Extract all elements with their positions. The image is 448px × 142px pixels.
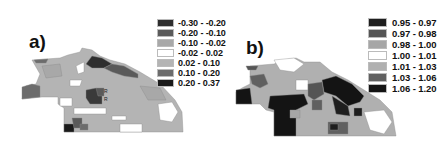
legend-swatch xyxy=(157,69,174,77)
legend-label: 1.00 - 1.01 xyxy=(392,50,436,61)
legend-swatch xyxy=(368,29,387,38)
legend-label: 0.97 - 0.98 xyxy=(392,28,436,39)
legend-swatch xyxy=(368,84,387,93)
legend-swatch xyxy=(368,40,387,49)
legend-swatch xyxy=(157,79,174,87)
legend-swatch xyxy=(157,59,174,67)
legend-item: 1.01 - 1.03 xyxy=(368,61,436,72)
legend-item: -0.10 - -0.02 xyxy=(157,38,226,48)
marker-r: R xyxy=(104,88,108,94)
legend-swatch xyxy=(368,51,387,60)
legend-label: 0.02 - 0.10 xyxy=(178,58,220,68)
marker-r: R xyxy=(104,96,108,102)
map-panel-b: b) 0.95 - 0.97 0.97 - 0.98 0.98 - 1.00 1… xyxy=(224,0,448,142)
legend-item: 0.10 - 0.20 xyxy=(157,68,226,78)
panel-label-b: b) xyxy=(246,37,264,59)
legend-label: -0.20 - -0.10 xyxy=(178,28,226,38)
legend-item: -0.20 - -0.10 xyxy=(157,28,226,38)
legend-label: -0.02 - 0.02 xyxy=(178,48,223,58)
legend-swatch xyxy=(157,29,174,37)
legend-item: -0.02 - 0.02 xyxy=(157,48,226,58)
legend-item: 0.98 - 1.00 xyxy=(368,39,436,50)
legend-item: -0.30 - -0.20 xyxy=(157,18,226,28)
legend-label: -0.10 - -0.02 xyxy=(178,38,226,48)
legend-swatch xyxy=(157,49,174,57)
legend-swatch xyxy=(368,62,387,71)
legend-swatch xyxy=(368,18,387,27)
legend-label: 0.98 - 1.00 xyxy=(392,39,436,50)
legend-item: 1.03 - 1.06 xyxy=(368,72,436,83)
legend-item: 0.02 - 0.10 xyxy=(157,58,226,68)
legend-label: 0.10 - 0.20 xyxy=(178,68,220,78)
legend-item: 0.97 - 0.98 xyxy=(368,28,436,39)
legend-label: -0.30 - -0.20 xyxy=(178,18,226,28)
legend-item: 0.95 - 0.97 xyxy=(368,17,436,28)
legend-swatch xyxy=(157,39,174,47)
legend-item: 1.06 - 1.20 xyxy=(368,83,436,94)
legend-a: -0.30 - -0.20 -0.20 - -0.10 -0.10 - -0.0… xyxy=(157,18,226,88)
legend-label: 1.06 - 1.20 xyxy=(392,83,436,94)
legend-label: 1.03 - 1.06 xyxy=(392,72,436,83)
legend-item: 0.20 - 0.37 xyxy=(157,78,226,88)
map-panel-a: R R a) -0.30 - -0.20 -0.20 - -0.10 -0.10… xyxy=(0,0,224,142)
legend-swatch xyxy=(368,73,387,82)
legend-label: 0.20 - 0.37 xyxy=(178,78,220,88)
panel-label-a: a) xyxy=(29,31,46,53)
legend-label: 1.01 - 1.03 xyxy=(392,61,436,72)
legend-item: 1.00 - 1.01 xyxy=(368,50,436,61)
legend-b: 0.95 - 0.97 0.97 - 0.98 0.98 - 1.00 1.00… xyxy=(368,17,436,94)
legend-label: 0.95 - 0.97 xyxy=(392,17,436,28)
legend-swatch xyxy=(157,19,174,27)
